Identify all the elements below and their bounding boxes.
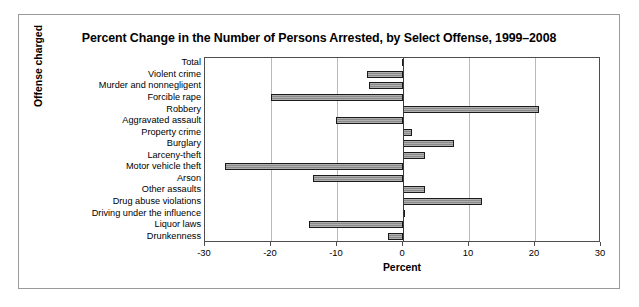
category-axis-labels: TotalViolent crimeMurder and nonnegligen… <box>59 57 201 242</box>
chart-figure: Percent Change in the Number of Persons … <box>18 14 620 289</box>
bar-row <box>205 139 599 151</box>
tick-mark <box>600 242 601 246</box>
category-label: Arson <box>59 173 201 183</box>
bar-row <box>205 116 599 128</box>
tick-label: -10 <box>329 247 343 258</box>
bar <box>403 106 539 113</box>
tick-mark <box>402 242 403 246</box>
y-axis-title: Offense charged <box>33 25 44 107</box>
category-label: Murder and nonnegligent <box>59 80 201 90</box>
category-label: Drunkenness <box>59 231 201 241</box>
tick-label: -20 <box>263 247 277 258</box>
tick-mark <box>336 242 337 246</box>
tick-label: 20 <box>529 247 539 258</box>
bar <box>336 117 403 124</box>
category-label: Forcible rape <box>59 92 201 102</box>
category-label: Larceny-theft <box>59 150 201 160</box>
bar <box>225 163 403 170</box>
bar <box>403 129 412 136</box>
tick-mark <box>204 242 205 246</box>
zero-baseline <box>403 58 404 241</box>
tick-label: 0 <box>399 247 404 258</box>
plot-area <box>204 57 600 242</box>
tick-label: -30 <box>197 247 211 258</box>
category-label: Driving under the influence <box>59 208 201 218</box>
tick-label: 10 <box>463 247 473 258</box>
bar-row <box>205 208 599 220</box>
bar <box>403 152 425 159</box>
bar-row <box>205 127 599 139</box>
bar-row <box>205 185 599 197</box>
category-label: Aggravated assault <box>59 115 201 125</box>
category-label: Violent crime <box>59 69 201 79</box>
bar <box>369 82 403 89</box>
category-label: Liquor laws <box>59 219 201 229</box>
tick-mark <box>534 242 535 246</box>
category-label: Other assaults <box>59 184 201 194</box>
bar-row <box>205 93 599 105</box>
category-label: Robbery <box>59 104 201 114</box>
category-label: Property crime <box>59 127 201 137</box>
category-label: Total <box>59 57 201 67</box>
bar <box>403 140 454 147</box>
bar-row <box>205 197 599 209</box>
x-axis-title: Percent <box>204 262 600 273</box>
category-label: Burglary <box>59 138 201 148</box>
bar <box>367 71 403 78</box>
bar-row <box>205 174 599 186</box>
tick-mark <box>468 242 469 246</box>
bar-row <box>205 151 599 163</box>
bar <box>271 94 403 101</box>
tick-label: 30 <box>595 247 605 258</box>
bar <box>403 198 482 205</box>
bar-row <box>205 162 599 174</box>
bar-row <box>205 81 599 93</box>
bar-row <box>205 104 599 116</box>
tick-mark <box>270 242 271 246</box>
bar <box>309 221 403 228</box>
bar-row <box>205 70 599 82</box>
bar <box>313 175 403 182</box>
category-label: Drug abuse violations <box>59 196 201 206</box>
x-axis-ticks: -30-20-100102030 <box>204 242 600 260</box>
bar-row <box>205 220 599 232</box>
chart-title: Percent Change in the Number of Persons … <box>19 31 619 45</box>
category-label: Motor vehicle theft <box>59 161 201 171</box>
bar <box>403 186 425 193</box>
bar-row <box>205 58 599 70</box>
bar <box>388 233 403 240</box>
